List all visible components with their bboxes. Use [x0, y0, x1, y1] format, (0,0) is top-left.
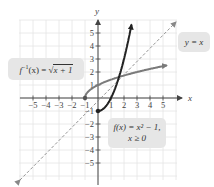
- x-tick-label: −2: [67, 100, 76, 110]
- finv-mid: (x) = √: [28, 65, 53, 75]
- y-tick-label: 3: [90, 54, 94, 64]
- y-tick-label: 2: [90, 67, 94, 77]
- x-tick-label: 3: [135, 100, 139, 110]
- inverse-endpoint: [83, 96, 87, 100]
- inverse-function-curve: [85, 65, 167, 98]
- inverse-function-graph: xy −5−4−3−2−11234554321−1−2−3−4−5 f−1(x)…: [0, 0, 214, 187]
- x-tick-label: 4: [148, 100, 153, 110]
- f-label-line2: x ≥ 0: [128, 133, 146, 144]
- identity-label-text: y = x: [185, 37, 204, 48]
- y-tick-label: −1: [85, 106, 94, 116]
- x-tick-label: 5: [161, 100, 165, 110]
- function-endpoint: [96, 109, 100, 113]
- finv-radicand: x + 1: [53, 64, 72, 75]
- y-axis-label: y: [94, 6, 99, 16]
- plot-area: xy −5−4−3−2−11234554321−1−2−3−4−5: [0, 0, 214, 187]
- f-label: f(x) = x² − 1, x ≥ 0: [108, 118, 166, 148]
- x-tick-label: −3: [54, 100, 63, 110]
- y-tick-label: −3: [85, 132, 94, 142]
- x-axis-label: x: [187, 93, 192, 103]
- f-label-line1: f(x) = x² − 1,: [113, 122, 160, 133]
- x-tick-label: −4: [41, 100, 51, 110]
- y-tick-label: −2: [85, 119, 94, 129]
- x-tick-label: −5: [28, 100, 37, 110]
- finv-label: f−1(x) = √x + 1: [8, 58, 84, 80]
- y-tick-label: −4: [85, 145, 95, 155]
- x-tick-label: 2: [122, 100, 126, 110]
- y-tick-label: −5: [85, 158, 94, 168]
- y-tick-label: 5: [90, 28, 94, 38]
- identity-label: y = x: [178, 32, 210, 52]
- finv-label-text: f−1(x) = √x + 1: [20, 62, 73, 76]
